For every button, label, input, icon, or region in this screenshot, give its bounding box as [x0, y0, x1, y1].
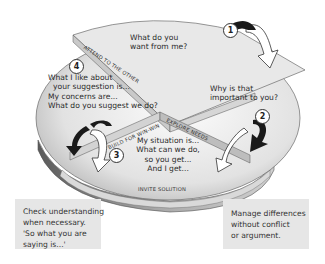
- invite-solution-label: Invite solution: [138, 186, 186, 192]
- step-3-badge: 3: [109, 148, 124, 163]
- quadrant-3-line-1: My situation is...: [128, 136, 208, 145]
- left-note-line-3: 'So what you are: [23, 228, 93, 239]
- quadrant-1-line-1: What do you: [130, 33, 187, 42]
- manage-differences-note: Manage differences without conflict or a…: [223, 199, 309, 249]
- quadrant-4-line-3: My concerns are...: [48, 92, 158, 101]
- quadrant-4-line-2: your suggestion is...: [48, 82, 158, 91]
- check-understanding-note: Check understanding when necessary. 'So …: [15, 199, 101, 249]
- quadrant-1-line-2: want from me?: [130, 42, 187, 51]
- quadrant-4-line-1: What I like about: [48, 73, 158, 82]
- quadrant-3-line-4: And I get...: [128, 164, 208, 173]
- quadrant-3-line-3: so you get...: [128, 155, 208, 164]
- right-note-line-1: Manage differences: [231, 208, 301, 219]
- quadrant-4-line-4: What do you suggest we do?: [48, 101, 158, 110]
- step-2-badge: 2: [255, 109, 270, 124]
- quadrant-2-line-2: important to you?: [210, 93, 278, 102]
- right-note-line-3: or argument.: [231, 230, 301, 241]
- left-note-line-2: when necessary.: [23, 217, 93, 228]
- quadrant-3-text: My situation is... What can we do, so yo…: [128, 136, 208, 174]
- quadrant-4-text: What I like about your suggestion is... …: [48, 73, 158, 111]
- step-1-badge: 1: [223, 23, 238, 38]
- left-note-line-4: saying is...': [23, 239, 93, 250]
- quadrant-2-line-1: Why is that: [210, 84, 278, 93]
- quadrant-2-text: Why is that important to you?: [210, 84, 278, 103]
- negotiation-cycle-diagram: What do you want from me? Why is that im…: [0, 0, 325, 264]
- left-note-line-1: Check understanding: [23, 206, 93, 217]
- step-4-badge: 4: [69, 59, 84, 74]
- right-note-line-2: without conflict: [231, 219, 301, 230]
- quadrant-1-text: What do you want from me?: [130, 33, 187, 52]
- quadrant-3-line-2: What can we do,: [128, 145, 208, 154]
